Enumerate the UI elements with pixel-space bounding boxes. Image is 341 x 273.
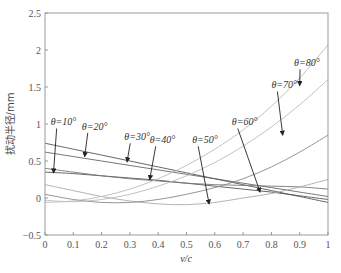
annotation-label: θ=30° bbox=[124, 131, 150, 142]
y-tick-label: 2.5 bbox=[29, 8, 42, 19]
annotations: θ=10°θ=20°θ=30°θ=40°θ=50°θ=60°θ=70°θ=80° bbox=[51, 57, 320, 204]
annotation-label: θ=40° bbox=[150, 134, 176, 145]
y-tick-label: 0 bbox=[36, 193, 41, 204]
annotation-arrow bbox=[53, 128, 56, 172]
x-tick-label: 0.8 bbox=[265, 239, 278, 250]
x-tick-label: 0 bbox=[43, 239, 48, 250]
x-tick-label: 0.3 bbox=[124, 239, 137, 250]
annotation-label: θ=10° bbox=[51, 116, 77, 127]
series-line bbox=[45, 168, 328, 189]
y-axis-ticks: −0.500.511.522.5 bbox=[23, 8, 48, 241]
y-axis-label: 扰动半径/mm bbox=[4, 93, 16, 156]
annotation-arrow bbox=[198, 146, 209, 204]
y-tick-label: 1 bbox=[36, 119, 41, 130]
y-tick-label: 2 bbox=[36, 45, 41, 56]
y-tick-label: 0.5 bbox=[29, 156, 42, 167]
x-tick-label: 0.7 bbox=[237, 239, 250, 250]
annotation-label: θ=70° bbox=[271, 79, 297, 90]
annotation-arrow bbox=[150, 146, 156, 179]
x-tick-label: 0.5 bbox=[180, 239, 193, 250]
annotation-arrow bbox=[127, 143, 130, 161]
y-tick-label: −0.5 bbox=[23, 230, 41, 241]
y-tick-label: 1.5 bbox=[29, 82, 42, 93]
chart: θ=10°θ=20°θ=30°θ=40°θ=50°θ=60°θ=70°θ=80°… bbox=[0, 0, 341, 273]
series-line bbox=[45, 135, 328, 203]
annotation-label: θ=20° bbox=[82, 121, 108, 132]
x-tick-label: 0.1 bbox=[67, 239, 80, 250]
x-axis-label: v/c bbox=[180, 253, 192, 264]
annotation-arrow bbox=[85, 133, 88, 157]
x-tick-label: 1 bbox=[326, 239, 331, 250]
x-tick-label: 0.4 bbox=[152, 239, 165, 250]
x-tick-label: 0.2 bbox=[95, 239, 108, 250]
annotation-label: θ=80° bbox=[294, 57, 320, 68]
annotation-label: θ=50° bbox=[192, 134, 218, 145]
annotation-label: θ=60° bbox=[232, 116, 258, 127]
x-tick-label: 0.9 bbox=[293, 239, 306, 250]
x-tick-label: 0.6 bbox=[209, 239, 222, 250]
